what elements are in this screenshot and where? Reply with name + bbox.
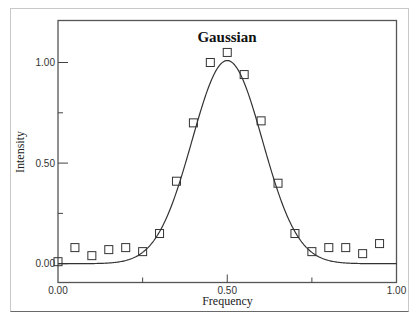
y-tick-label: 0.50 xyxy=(36,158,56,169)
y-tick-label: 1.00 xyxy=(36,57,56,68)
chart: 0.000.501.00 0.000.501.00 Gaussian Frequ… xyxy=(0,0,420,322)
y-axis-title: Intensity xyxy=(13,131,27,173)
x-tick-label: 0.00 xyxy=(48,285,68,296)
x-tick-label: 1.00 xyxy=(387,285,407,296)
chart-title: Gaussian xyxy=(197,29,257,45)
x-axis-title: Frequency xyxy=(202,294,253,308)
y-tick-label: 0.00 xyxy=(36,258,56,269)
